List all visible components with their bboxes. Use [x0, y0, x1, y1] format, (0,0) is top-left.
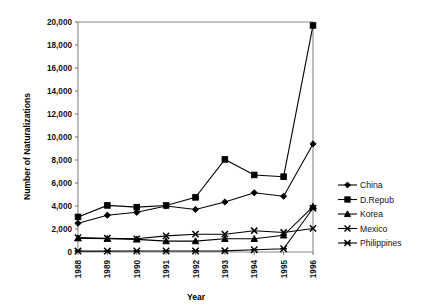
x-tick-label: 1988 — [74, 260, 83, 279]
x-axis-title: Year — [187, 292, 206, 302]
naturalizations-line-chart: 02,0004,0006,0008,00010,00012,00014,0001… — [0, 0, 427, 307]
series-d-repub — [75, 23, 316, 220]
legend-item-philippines[interactable]: Philippines — [338, 238, 402, 248]
data-point-marker — [310, 23, 316, 29]
data-point-marker — [280, 246, 287, 252]
legend-label: Philippines — [360, 238, 402, 248]
data-point-marker — [251, 190, 257, 196]
data-point-marker — [193, 195, 199, 201]
data-point-marker — [344, 240, 350, 246]
chart-legend: ChinaD.RepubKoreaMexicoPhilippines — [338, 180, 402, 248]
data-point-marker — [105, 203, 111, 209]
legend-item-d-repub[interactable]: D.Repub — [338, 195, 394, 205]
legend-item-china[interactable]: China — [338, 180, 383, 190]
legend-label: D.Repub — [360, 195, 394, 205]
x-tick-label: 1992 — [192, 260, 201, 279]
y-axis-title: Number of Naturalizations — [22, 93, 32, 200]
data-point-marker — [75, 220, 81, 226]
y-tick-label: 10,000 — [47, 133, 72, 142]
y-tick-label: 12,000 — [47, 110, 72, 119]
plot-area-border — [78, 22, 313, 252]
y-tick-label: 14,000 — [47, 87, 72, 96]
data-point-marker — [281, 193, 287, 199]
legend-label: Mexico — [360, 224, 387, 234]
data-point-marker — [345, 182, 351, 188]
data-point-marker — [345, 197, 350, 202]
x-tick-label: 1990 — [133, 260, 142, 279]
y-tick-label: 0 — [67, 248, 72, 257]
data-point-marker — [222, 157, 228, 163]
data-point-marker — [134, 204, 140, 210]
x-tick-label: 1996 — [309, 260, 318, 279]
data-point-marker — [104, 212, 110, 218]
legend-item-mexico[interactable]: Mexico — [338, 224, 387, 234]
series-line — [78, 25, 313, 216]
legend-label: China — [360, 180, 383, 190]
chart-container: 02,0004,0006,0008,00010,00012,00014,0001… — [0, 0, 427, 307]
data-series-group — [75, 23, 317, 255]
y-tick-label: 20,000 — [47, 18, 72, 27]
legend-item-korea[interactable]: Korea — [338, 209, 383, 219]
data-point-marker — [251, 172, 257, 178]
data-point-marker — [222, 199, 228, 205]
y-tick-label: 2,000 — [52, 225, 73, 234]
x-axis-ticks: 198819891990199119921993199419951996 — [74, 252, 318, 278]
y-tick-label: 6,000 — [52, 179, 73, 188]
y-axis-ticks: 02,0004,0006,0008,00010,00012,00014,0001… — [47, 18, 78, 257]
data-point-marker — [281, 174, 287, 180]
data-point-marker — [163, 203, 169, 209]
x-tick-label: 1994 — [250, 260, 259, 279]
y-tick-label: 8,000 — [52, 156, 73, 165]
series-china — [75, 141, 316, 227]
y-tick-label: 18,000 — [47, 41, 72, 50]
legend-label: Korea — [360, 209, 383, 219]
data-point-marker — [75, 214, 81, 220]
x-tick-label: 1991 — [162, 260, 171, 279]
x-tick-label: 1995 — [280, 260, 289, 279]
x-tick-label: 1989 — [103, 260, 112, 279]
y-tick-label: 16,000 — [47, 64, 72, 73]
data-point-marker — [310, 141, 316, 147]
y-tick-label: 4,000 — [52, 202, 73, 211]
x-tick-label: 1993 — [221, 260, 230, 279]
data-point-marker — [192, 206, 198, 212]
